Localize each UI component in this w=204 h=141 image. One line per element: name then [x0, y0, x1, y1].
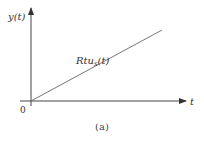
- origin-label: 0: [20, 105, 26, 115]
- y-axis-label: y(t): [7, 11, 26, 22]
- series-label: Rtus(t): [75, 55, 110, 68]
- ramp-function-plot: y(t) t 0 Rtus(t) (a): [0, 0, 204, 141]
- figure-caption: (a): [95, 121, 109, 132]
- x-axis-label: t: [190, 96, 195, 107]
